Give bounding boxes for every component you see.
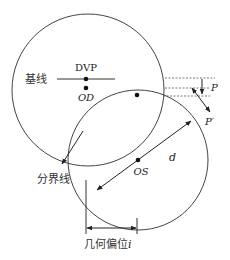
dvp-point [84, 77, 89, 82]
p-prime-label: P′ [204, 116, 215, 127]
od-label: OD [78, 92, 94, 103]
os-point [136, 158, 141, 163]
lower-circle-top-point [135, 93, 140, 98]
p-label: P [210, 82, 218, 93]
boundary-label: 分界线 [37, 172, 70, 186]
p-prime-arrow [192, 88, 210, 112]
os-label: OS [133, 166, 148, 177]
od-point [84, 86, 89, 91]
offset-diagram: DVP OD 基线 P P′ OS d 分界线 几何偏位i [0, 0, 230, 260]
diameter-arrow [97, 121, 191, 190]
offset-label: 几何偏位i [84, 237, 132, 251]
dvp-label: DVP [75, 62, 97, 73]
baseline-label: 基线 [25, 72, 47, 86]
diameter-label: d [169, 151, 176, 164]
